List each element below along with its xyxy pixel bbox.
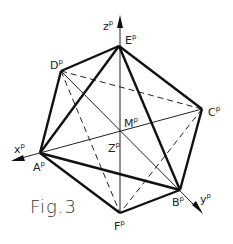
- label-z-lower: Zp: [108, 141, 121, 155]
- label-z-axis: zp: [103, 19, 114, 33]
- z-arrow-icon: [117, 15, 123, 28]
- label-vertex-a: Ap: [33, 160, 46, 174]
- octahedron-diagram: zp Ep Dp Cp Mp Zp xp Ap Bp yp Fp Fig.3: [0, 0, 233, 244]
- figure-caption: Fig.3: [30, 196, 77, 217]
- arrowheads: [11, 15, 203, 214]
- label-vertex-c: Cp: [208, 105, 221, 119]
- label-vertex-f: Fp: [114, 219, 125, 233]
- label-x-axis: xp: [14, 142, 26, 156]
- label-vertex-b: Bp: [172, 195, 185, 209]
- label-vertex-e: Ep: [125, 33, 137, 47]
- label-y-axis: yp: [200, 192, 212, 206]
- label-center-m: Mp: [124, 116, 139, 130]
